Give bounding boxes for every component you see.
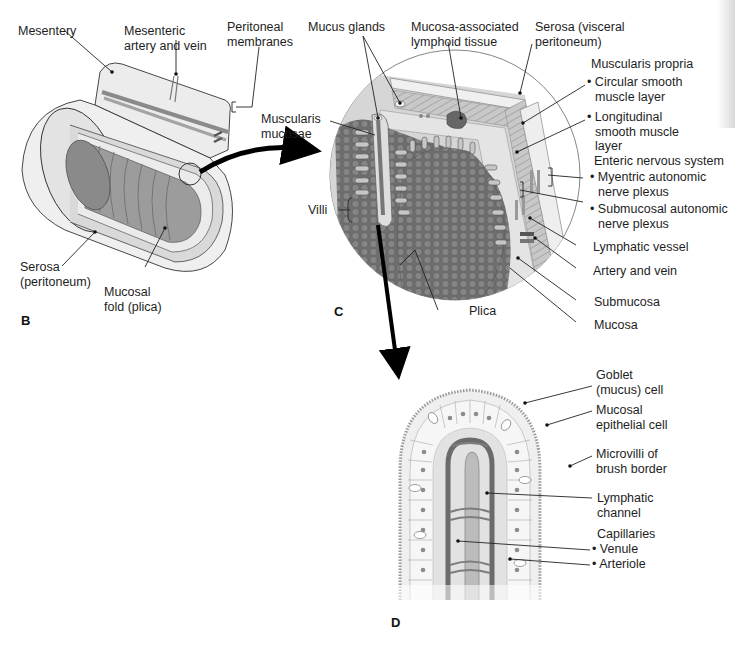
label-mucosa: Mucosa <box>594 318 638 333</box>
label-muscularis-mucosae: Muscularis mucosae <box>261 112 321 141</box>
label-goblet-cell: Goblet (mucus) cell <box>596 368 663 397</box>
label-submucosal-plexus: • Submucosal autonomic nerve plexus <box>590 202 728 231</box>
label-serosa-peritoneum: Serosa (peritoneum) <box>20 260 91 289</box>
label-lymphatic-vessel: Lymphatic vessel <box>593 240 688 255</box>
label-line: Microvilli of <box>596 447 667 462</box>
label-line: membranes <box>227 35 293 50</box>
label-line: Mucosal <box>596 403 668 418</box>
label-myenteric-plexus: • Myentric autonomic nerve plexus <box>590 170 706 199</box>
label-serosa-visceral: Serosa (visceral peritoneum) <box>535 20 625 49</box>
panel-d-villus <box>396 390 546 607</box>
label-capillaries: Capillaries <box>597 527 655 542</box>
label-epithelial-cell: Mucosal epithelial cell <box>596 403 668 432</box>
label-line: Mucosa-associated <box>411 20 519 35</box>
panel-letter-c: C <box>334 304 343 319</box>
label-longitudinal-muscle: • Longitudinal smooth muscle layer <box>587 110 679 154</box>
label-line: lymphoid tissue <box>411 35 519 50</box>
label-line: • Longitudinal <box>587 110 679 125</box>
label-line: muscle layer <box>587 90 682 105</box>
label-line: nerve plexus <box>590 217 728 232</box>
label-microvilli: Microvilli of brush border <box>596 447 667 476</box>
label-line: (peritoneum) <box>20 275 91 290</box>
label-line: Lymphatic <box>597 491 654 506</box>
label-line: Serosa (visceral <box>535 20 625 35</box>
panel-c-wall-section <box>330 50 580 300</box>
label-line: Serosa <box>20 260 91 275</box>
label-peritoneal-membranes: Peritoneal membranes <box>227 20 293 49</box>
label-circular-muscle: • Circular smooth muscle layer <box>587 75 682 104</box>
page-edge-shadow <box>717 0 735 128</box>
label-line: Muscularis <box>261 112 321 127</box>
label-mucosal-fold: Mucosal fold (plica) <box>104 285 162 314</box>
label-line: • Circular smooth <box>587 75 682 90</box>
label-line: Mucosal <box>104 285 162 300</box>
label-venule: • Venule <box>592 542 638 557</box>
panel-b-intestine-segment <box>22 63 233 271</box>
label-villi: Villi <box>308 203 327 218</box>
intestine-wall-diagram: Mesentery Mesenteric artery and vein Per… <box>0 0 735 646</box>
label-mesentery: Mesentery <box>18 24 76 39</box>
label-mesenteric-vessels: Mesenteric artery and vein <box>124 24 207 53</box>
label-line: brush border <box>596 462 667 477</box>
label-line: peritoneum) <box>535 35 625 50</box>
label-line: artery and vein <box>124 39 207 54</box>
label-line: mucosae <box>261 127 321 142</box>
label-line: epithelial cell <box>596 418 668 433</box>
label-muscularis-propria: Muscularis propria <box>591 57 693 72</box>
label-plica: Plica <box>469 304 496 319</box>
label-submucosa: Submucosa <box>594 295 660 310</box>
label-lymphatic-channel: Lymphatic channel <box>597 491 654 520</box>
label-line: Mesenteric <box>124 24 207 39</box>
label-line: Goblet <box>596 368 663 383</box>
label-arteriole: • Arteriole <box>592 557 646 572</box>
label-line: fold (plica) <box>104 300 162 315</box>
panel-letter-b: B <box>21 313 30 328</box>
label-artery-vein: Artery and vein <box>593 264 677 279</box>
panel-letter-d: D <box>391 615 400 630</box>
label-line: • Myentric autonomic <box>590 170 706 185</box>
label-line: channel <box>597 506 654 521</box>
label-malt: Mucosa-associated lymphoid tissue <box>411 20 519 49</box>
label-enteric-nervous-system: Enteric nervous system <box>594 154 724 169</box>
label-mucus-glands: Mucus glands <box>308 20 385 35</box>
label-line: smooth muscle <box>587 125 679 140</box>
label-line: Peritoneal <box>227 20 293 35</box>
label-line: layer <box>587 139 679 154</box>
label-line: (mucus) cell <box>596 383 663 398</box>
label-line: nerve plexus <box>590 185 706 200</box>
label-line: • Submucosal autonomic <box>590 202 728 217</box>
